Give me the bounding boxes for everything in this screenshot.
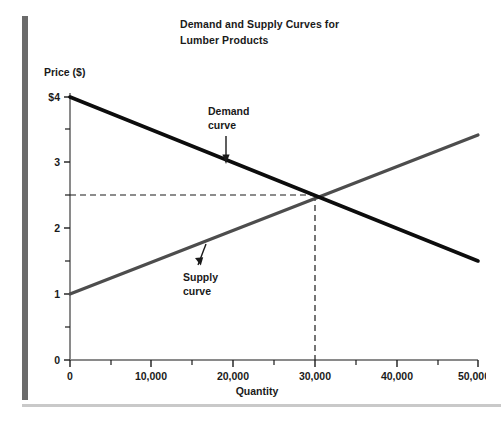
supply-curve-line bbox=[70, 135, 478, 294]
supply-curve-annotation: Supply curve bbox=[183, 244, 218, 297]
y-tick-label-1: 1 bbox=[54, 288, 60, 300]
chart-figure: Demand and Supply Curves for Lumber Prod… bbox=[28, 16, 486, 404]
y-tick-label-0: 0 bbox=[54, 354, 60, 366]
y-tick-label-2: 2 bbox=[54, 222, 60, 234]
demand-curve-line bbox=[70, 97, 478, 261]
y-tick-label-4: $4 bbox=[48, 91, 60, 103]
x-tick-label-50000: 50,000 bbox=[458, 370, 486, 382]
x-tick-label-20000: 20,000 bbox=[217, 370, 249, 382]
x-tick-label-30000: 30,000 bbox=[299, 370, 331, 382]
x-tick-label-10000: 10,000 bbox=[135, 370, 167, 382]
y-tick-label-3: 3 bbox=[54, 156, 60, 168]
demand-annotation-line-1: Demand bbox=[208, 105, 249, 117]
x-tick-label-40000: 40,000 bbox=[381, 370, 413, 382]
page-bottom-rule bbox=[22, 404, 501, 407]
x-tick-label-0: 0 bbox=[67, 370, 73, 382]
figure-page: Demand and Supply Curves for Lumber Prod… bbox=[0, 0, 501, 427]
supply-annotation-arrowhead bbox=[195, 257, 203, 265]
supply-annotation-line-2: curve bbox=[183, 285, 211, 297]
demand-annotation-line-2: curve bbox=[208, 119, 236, 131]
plot-area: 0 1 2 3 $4 0 1 bbox=[28, 16, 486, 404]
supply-annotation-line-1: Supply bbox=[183, 271, 218, 283]
